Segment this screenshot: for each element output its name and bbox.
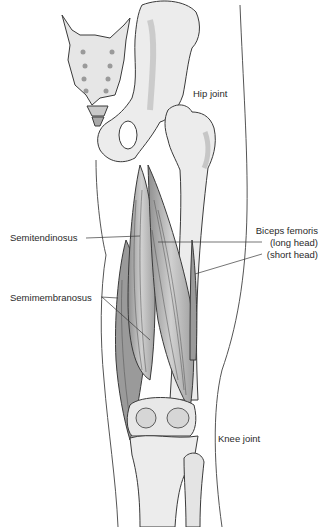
label-semitendinosus: Semitendinosus — [10, 232, 78, 243]
label-biceps-femoris-short-head: (short head) — [267, 249, 318, 260]
label-biceps-femoris: Biceps femoris — [256, 225, 318, 236]
label-biceps-femoris-long-head: (long head) — [270, 237, 318, 248]
label-knee-joint: Knee joint — [218, 433, 260, 444]
knee-joint-bones — [127, 398, 204, 527]
hamstring-anatomy-illustration — [0, 0, 332, 527]
sacrum-bone — [62, 15, 130, 126]
label-hip-joint: Hip joint — [193, 88, 227, 99]
label-semimembranosus: Semimembranosus — [10, 292, 92, 303]
